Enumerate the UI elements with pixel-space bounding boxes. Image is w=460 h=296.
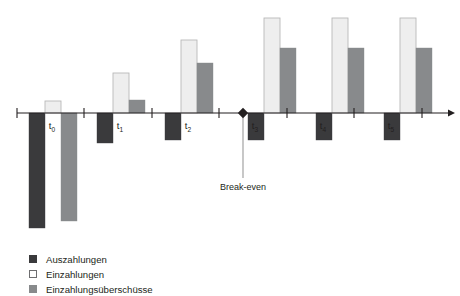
bar-einzahlungsueberschuesse — [416, 48, 432, 113]
breakeven-label: Break-even — [220, 182, 266, 192]
bar-einzahlungen — [332, 18, 348, 113]
bar-einzahlungen — [45, 101, 61, 113]
bar-einzahlungsueberschuesse — [129, 100, 145, 113]
axis-arrow-icon — [448, 110, 455, 117]
bar-einzahlungsueberschuesse — [348, 48, 364, 113]
bar-auszahlungen — [97, 113, 113, 143]
bar-einzahlungsueberschuesse — [280, 48, 296, 113]
legend-label: Auszahlungen — [46, 254, 107, 265]
legend-item-0[interactable]: Auszahlungen — [29, 252, 107, 266]
bar-einzahlungsueberschuesse — [197, 63, 213, 113]
category-label-1: t1 — [117, 120, 124, 133]
bar-einzahlungen — [400, 18, 416, 113]
bar-group-t0 — [29, 101, 77, 228]
category-label-0: t0 — [49, 120, 56, 133]
legend-item-2[interactable]: Einzahlungsüberschüsse — [29, 282, 153, 296]
bar-auszahlungen — [165, 113, 181, 140]
bar-einzahlungen — [113, 73, 129, 113]
legend-label: Einzahlungen — [46, 269, 104, 280]
bar-einzahlungen — [181, 40, 197, 113]
bar-einzahlungen — [264, 18, 280, 113]
breakeven-diamond-icon — [238, 108, 248, 118]
bar-einzahlungsueberschuesse — [61, 113, 77, 221]
bar-group-t3 — [248, 18, 296, 140]
bar-group-t4 — [316, 18, 364, 140]
bar-auszahlungen — [29, 113, 45, 228]
legend-swatch-icon — [29, 255, 37, 263]
bar-group-t5 — [384, 18, 432, 140]
cash-flow-chart: t0t1t2t3t4t5 Break-even AuszahlungenEinz… — [0, 0, 460, 296]
bars-layer — [29, 18, 432, 228]
legend-swatch-icon — [29, 285, 37, 293]
legend-item-1[interactable]: Einzahlungen — [29, 267, 104, 281]
legend-label: Einzahlungsüberschüsse — [46, 284, 153, 295]
legend-swatch-icon — [29, 270, 37, 278]
category-label-2: t2 — [185, 120, 192, 133]
